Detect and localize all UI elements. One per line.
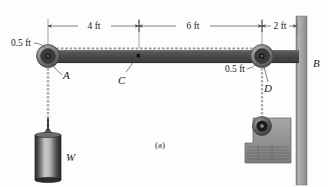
dimension-label-2ft: 2 ft	[274, 21, 287, 31]
wall-column	[296, 16, 307, 185]
point-label-a: A	[62, 69, 70, 81]
pulley-d	[251, 45, 274, 68]
dimension-line-2ft: 2 ft	[262, 21, 297, 31]
pulley-a	[37, 45, 60, 68]
weight-assembly	[35, 128, 61, 183]
dimension-line-4ft: 4 ft	[48, 21, 139, 31]
point-label-b: B	[313, 57, 320, 69]
winch-assembly	[245, 117, 291, 164]
pulley-d-radius-label: 0.5 ft	[225, 64, 245, 74]
label-a-leader	[52, 64, 62, 75]
dimension-label-4ft: 4 ft	[88, 21, 101, 31]
diagram-canvas: 4 ft 6 ft 2 ft	[0, 0, 328, 187]
statics-figure: 4 ft 6 ft 2 ft	[0, 0, 328, 187]
pulley-a-radius-label: 0.5 ft	[11, 38, 31, 48]
figure-caption: (a)	[155, 140, 165, 150]
point-label-c: C	[118, 74, 126, 86]
weight-label-w: W	[66, 151, 76, 163]
dimension-label-6ft: 6 ft	[187, 21, 200, 31]
dimension-line-6ft: 6 ft	[139, 21, 262, 31]
point-label-d: D	[263, 82, 272, 94]
label-d-leader	[264, 67, 268, 82]
